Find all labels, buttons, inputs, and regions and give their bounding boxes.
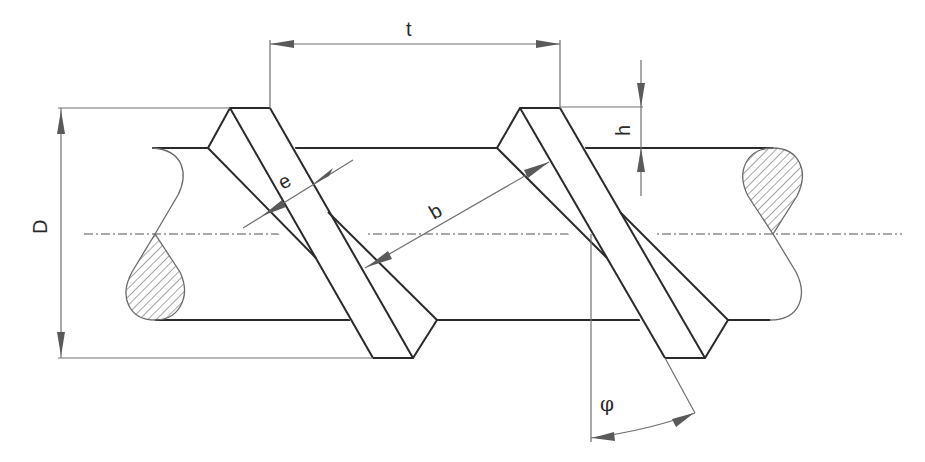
rebar-diagram: t h D e b φ [0,0,925,462]
dimension-b: b [365,162,549,268]
label-h: h [612,125,634,136]
label-b: b [425,199,446,224]
label-t: t [406,18,412,40]
dimension-t: t [270,18,560,108]
label-phi: φ [600,392,614,416]
label-d: D [29,220,51,234]
